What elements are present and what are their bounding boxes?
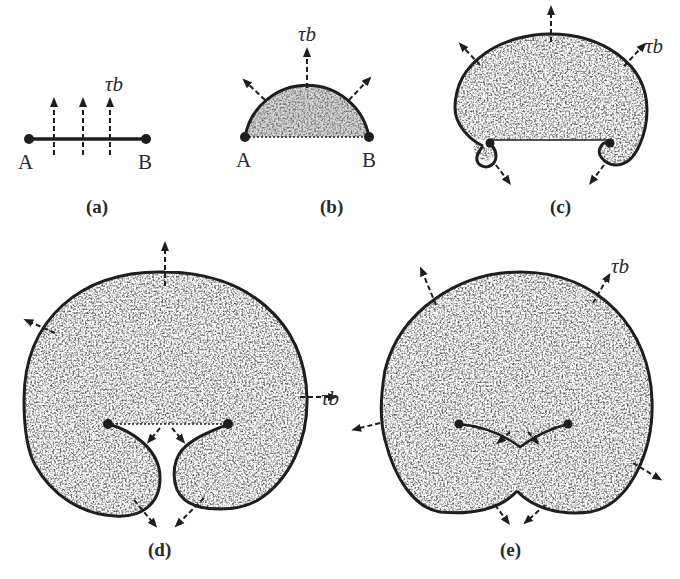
caption-e: (e) (500, 540, 521, 559)
stress-arrows (54, 102, 110, 155)
stress-label-a: τb (105, 74, 123, 95)
stress-label-e-right: τb (611, 256, 629, 277)
stress-label-c: τb (645, 36, 663, 57)
caption-b: (b) (320, 197, 343, 216)
endpoint-label-b-right: B (362, 150, 376, 171)
caption-d: (d) (148, 540, 171, 559)
caption-c: (c) (550, 197, 571, 216)
stress-label-d: τb (321, 388, 339, 409)
panel-c (455, 10, 647, 181)
panel-e (356, 271, 658, 521)
pin-point-right (564, 420, 573, 429)
panel-d (24, 246, 333, 524)
pin-point-left (103, 419, 113, 429)
panel-a (24, 102, 151, 155)
pin-point-left (486, 139, 495, 148)
panel-b (240, 52, 374, 142)
pin-point-right (223, 419, 233, 429)
caption-a: (a) (86, 197, 108, 216)
pin-point-right (606, 139, 615, 148)
pin-point-a (240, 132, 250, 142)
pin-point-b (141, 134, 151, 144)
stress-label-b: τb (298, 24, 316, 45)
pin-point-b (364, 132, 374, 142)
endpoint-label-b-left: A (236, 150, 251, 171)
endpoint-label-a-left: A (18, 152, 33, 173)
endpoint-label-a-right: B (138, 152, 152, 173)
pin-point-left (455, 420, 464, 429)
pin-point-a (24, 134, 34, 144)
frank-read-source-diagram (0, 0, 680, 579)
